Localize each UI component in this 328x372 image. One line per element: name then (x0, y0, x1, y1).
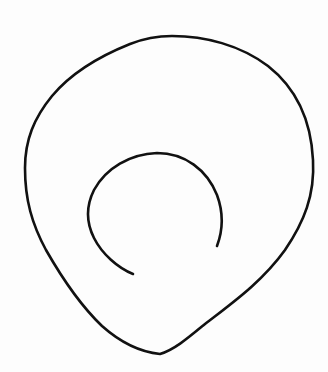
drawing-canvas (0, 0, 328, 372)
inner-open-arc (88, 153, 222, 274)
line-drawing (0, 0, 328, 372)
outer-loop-shape (25, 36, 313, 354)
